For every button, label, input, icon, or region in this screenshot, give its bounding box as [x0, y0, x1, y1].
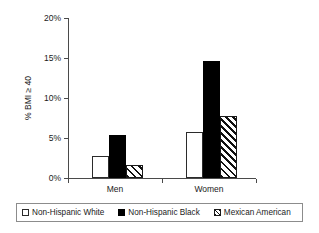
y-axis-tick — [64, 98, 68, 99]
y-axis-tick — [64, 138, 68, 139]
y-axis-title: % BMI ≥ 40 — [22, 18, 34, 178]
bar-group-men — [92, 18, 143, 178]
legend-swatch-white-icon — [22, 209, 29, 216]
y-axis-tick-label: 5% — [49, 134, 61, 143]
y-axis-tick — [64, 18, 68, 19]
y-axis-tick-label: 20% — [44, 14, 61, 23]
legend-item-non-hispanic-black: Non-Hispanic Black — [118, 208, 199, 217]
bmi-bar-chart-figure: 0%5%10%15%20% MenWomen % BMI ≥ 40 Non-Hi… — [0, 0, 319, 233]
y-axis-line — [68, 18, 69, 178]
y-axis-tick-label: 0% — [49, 174, 61, 183]
bar-men-hatch — [126, 165, 143, 178]
bar-group-women — [186, 18, 237, 178]
legend-swatch-hatch-icon — [214, 209, 221, 216]
x-axis-tick — [256, 179, 257, 183]
chart-legend: Non-Hispanic White Non-Hispanic Black Me… — [16, 203, 303, 222]
x-axis-group-label: Men — [70, 184, 160, 194]
plot-area: 0%5%10%15%20% MenWomen — [68, 18, 256, 178]
y-axis-tick — [64, 58, 68, 59]
legend-label: Non-Hispanic White — [32, 208, 104, 217]
bar-women-black — [203, 61, 220, 178]
bar-women-white — [186, 132, 203, 178]
x-axis-group-label: Women — [164, 184, 254, 194]
x-axis-tick — [68, 179, 69, 183]
bar-men-white — [92, 156, 109, 178]
y-axis-tick-label: 10% — [44, 94, 61, 103]
legend-label: Mexican American — [224, 208, 291, 217]
legend-swatch-black-icon — [118, 209, 125, 216]
bar-men-black — [109, 135, 126, 178]
legend-item-non-hispanic-white: Non-Hispanic White — [22, 208, 104, 217]
bar-women-hatch — [220, 116, 237, 178]
legend-label: Non-Hispanic Black — [128, 208, 199, 217]
x-axis-tick — [162, 179, 163, 183]
legend-item-mexican-american: Mexican American — [214, 208, 291, 217]
y-axis-tick-label: 15% — [44, 54, 61, 63]
